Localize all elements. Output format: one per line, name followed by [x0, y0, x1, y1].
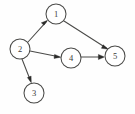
node-5-label: 5: [113, 51, 117, 61]
graph-figure: 1 2 3 4 5: [0, 0, 135, 114]
edge-2-to-3-arrowhead: [27, 76, 31, 83]
node-4[interactable]: 4: [61, 48, 81, 68]
node-5[interactable]: 5: [105, 46, 125, 66]
edge-4-to-5[interactable]: [81, 54, 104, 59]
edge-2-to-4-arrowhead: [54, 54, 61, 58]
edge-1-to-5-line: [64, 21, 107, 48]
edge-2-to-1[interactable]: [28, 20, 48, 42]
node-1[interactable]: 1: [46, 4, 66, 24]
edge-2-to-3[interactable]: [22, 59, 31, 83]
node-3-label: 3: [32, 88, 36, 98]
node-2[interactable]: 2: [10, 39, 30, 59]
node-group: 1 2 3 4 5: [10, 4, 125, 103]
node-1-label: 1: [54, 9, 58, 19]
edge-2-to-1-arrowhead: [41, 20, 47, 25]
node-3[interactable]: 3: [24, 83, 44, 103]
node-2-label: 2: [18, 44, 22, 54]
graph-canvas: 1 2 3 4 5: [0, 0, 135, 114]
edge-2-to-4[interactable]: [30, 51, 61, 58]
edge-1-to-5[interactable]: [64, 21, 108, 49]
edge-4-to-5-arrowhead: [98, 54, 104, 59]
